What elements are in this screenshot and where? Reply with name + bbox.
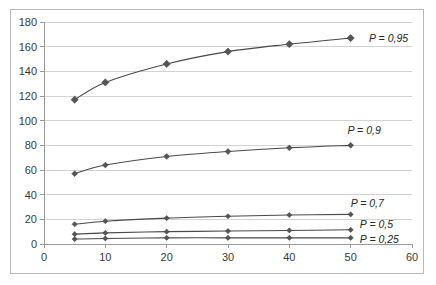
data-series xyxy=(72,235,353,241)
data-point-marker xyxy=(164,154,170,160)
data-point-marker xyxy=(102,79,109,86)
x-axis-tick-label: 30 xyxy=(222,251,234,263)
x-axis-tick-label: 40 xyxy=(283,251,295,263)
data-series xyxy=(71,34,354,103)
data-point-marker xyxy=(348,235,353,240)
series-line xyxy=(75,38,351,100)
data-point-marker xyxy=(224,48,231,55)
data-series xyxy=(72,142,354,176)
data-point-marker xyxy=(225,228,230,233)
y-axis-tick-label: 180 xyxy=(19,16,37,28)
y-axis-tick-label: 0 xyxy=(31,238,37,250)
data-point-marker xyxy=(103,230,108,235)
series-labels-group: P = 0,95P = 0,9P = 0,7P = 0,5P = 0,25 xyxy=(348,32,409,245)
data-point-marker xyxy=(164,235,169,240)
data-point-marker xyxy=(287,235,292,240)
data-point-marker xyxy=(72,222,77,227)
data-point-marker xyxy=(225,235,230,240)
data-point-marker xyxy=(348,227,353,232)
data-point-marker xyxy=(164,229,169,234)
series-line xyxy=(75,238,351,239)
y-axis-tick-label: 40 xyxy=(25,189,37,201)
data-point-marker xyxy=(102,162,108,168)
data-point-marker xyxy=(163,60,170,67)
data-point-marker xyxy=(72,236,77,241)
data-point-marker xyxy=(103,236,108,241)
x-axis-tick-label: 0 xyxy=(41,251,47,263)
y-axis-tick-label: 20 xyxy=(25,213,37,225)
series-line xyxy=(75,230,351,234)
x-axis-tick-labels: 0102030405060 xyxy=(41,244,418,263)
series-label: P = 0,25 xyxy=(360,233,399,245)
data-point-marker xyxy=(347,34,354,41)
data-point-marker xyxy=(348,212,353,217)
x-axis-tick-label: 50 xyxy=(345,251,357,263)
line-chart: 020406080100120140160180 0102030405060 P… xyxy=(0,0,436,285)
series-label: P = 0,95 xyxy=(369,32,408,44)
data-point-marker xyxy=(72,232,77,237)
data-point-marker xyxy=(71,96,78,103)
y-axis-tick-label: 160 xyxy=(19,41,37,53)
data-point-marker xyxy=(348,142,354,148)
x-axis-tick-label: 10 xyxy=(99,251,111,263)
y-axis-tick-label: 60 xyxy=(25,164,37,176)
data-series xyxy=(72,227,353,237)
x-axis-tick-label: 20 xyxy=(161,251,173,263)
data-point-marker xyxy=(225,149,231,155)
y-axis-tick-label: 80 xyxy=(25,139,37,151)
y-axis-tick-label: 120 xyxy=(19,90,37,102)
series-label: P = 0,5 xyxy=(360,218,393,230)
data-series-group xyxy=(71,34,354,241)
data-point-marker xyxy=(287,228,292,233)
data-point-marker xyxy=(164,216,169,221)
series-label: P = 0,7 xyxy=(351,197,385,209)
x-axis-tick-label: 60 xyxy=(406,251,418,263)
data-point-marker xyxy=(287,212,292,217)
y-axis-tick-labels: 020406080100120140160180 xyxy=(19,16,44,250)
data-point-marker xyxy=(72,171,78,177)
series-label: P = 0,9 xyxy=(348,124,381,136)
y-axis-tick-label: 140 xyxy=(19,65,37,77)
data-point-marker xyxy=(225,214,230,219)
series-line xyxy=(75,145,351,173)
y-axis-tick-label: 100 xyxy=(19,115,37,127)
